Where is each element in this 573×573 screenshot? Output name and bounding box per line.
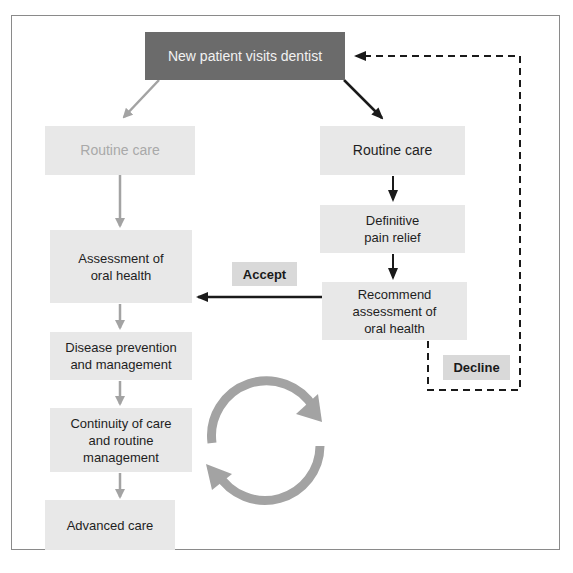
prevention-node: Disease prevention and management xyxy=(50,332,192,380)
refresh-cycle-icon xyxy=(212,381,320,501)
start-node-label: New patient visits dentist xyxy=(168,48,322,65)
continuity-label: Continuity of care and routine managemen… xyxy=(70,415,171,466)
pain-relief-node: Definitive pain relief xyxy=(320,205,465,253)
continuity-node: Continuity of care and routine managemen… xyxy=(50,408,192,472)
right-routine-care-label: Routine care xyxy=(353,142,432,159)
accept-label: Accept xyxy=(232,262,297,286)
left-routine-care-node: Routine care xyxy=(45,126,195,175)
advanced-care-label: Advanced care xyxy=(67,517,154,534)
decline-label: Decline xyxy=(443,355,510,380)
prevention-label: Disease prevention and management xyxy=(65,339,176,373)
decline-label-text: Decline xyxy=(453,360,499,375)
assessment-node: Assessment of oral health xyxy=(50,230,192,303)
recommend-assessment-node: Recommend assessment of oral health xyxy=(322,282,467,340)
advanced-care-node: Advanced care xyxy=(45,500,175,550)
arrow-start-to-left xyxy=(124,80,159,117)
assessment-label: Assessment of oral health xyxy=(78,250,163,284)
accept-label-text: Accept xyxy=(243,267,286,282)
left-routine-care-label: Routine care xyxy=(80,142,159,159)
arrow-start-to-right xyxy=(344,80,382,118)
start-node-new-patient: New patient visits dentist xyxy=(145,32,345,80)
right-routine-care-node: Routine care xyxy=(320,126,465,175)
recommend-assessment-label: Recommend assessment of oral health xyxy=(353,286,437,337)
pain-relief-label: Definitive pain relief xyxy=(364,212,420,246)
